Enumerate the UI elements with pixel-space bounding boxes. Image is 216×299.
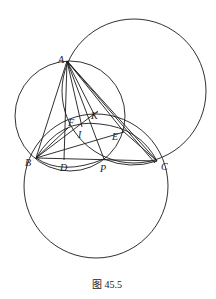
segment-ae bbox=[67, 61, 124, 132]
circle-lower bbox=[24, 114, 168, 258]
label-k: K bbox=[90, 110, 99, 121]
segment-ec bbox=[124, 132, 157, 161]
label-b: B bbox=[25, 157, 31, 168]
label-d: D bbox=[59, 162, 68, 173]
geometry-figure: A B C D P E F I K 图 45.5 bbox=[0, 0, 216, 299]
label-f: F bbox=[67, 117, 75, 128]
figure-caption: 图 45.5 bbox=[92, 279, 122, 290]
label-c: C bbox=[161, 161, 168, 172]
segment-bc bbox=[36, 158, 157, 161]
label-e: E bbox=[111, 131, 118, 142]
label-a: A bbox=[57, 54, 65, 65]
label-i: I bbox=[77, 129, 82, 140]
label-p: P bbox=[99, 163, 106, 174]
arc-bfec bbox=[36, 123, 157, 161]
circle-upper-right bbox=[62, 19, 206, 163]
